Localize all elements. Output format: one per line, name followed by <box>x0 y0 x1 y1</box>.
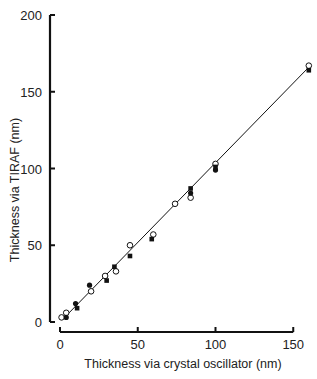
y-tick-label: 50 <box>28 238 42 253</box>
filled-square-point <box>149 237 154 242</box>
filled-circle-point <box>87 283 92 288</box>
fit-line <box>63 67 309 319</box>
x-tick-label: 150 <box>282 337 304 352</box>
filled-square-point <box>75 306 80 311</box>
open-circle-point <box>59 315 65 321</box>
filled-square-point <box>307 68 312 73</box>
y-tick-label: 150 <box>20 85 42 100</box>
filled-square-point <box>188 186 193 191</box>
open-circle-point <box>306 63 312 69</box>
filled-circle-point <box>64 315 69 320</box>
open-circle-point <box>113 269 119 275</box>
filled-square-point <box>112 264 117 269</box>
x-tick-label: 100 <box>205 337 227 352</box>
filled-circle-point <box>188 190 193 195</box>
data-points <box>59 63 312 320</box>
open-circle-point <box>151 232 157 238</box>
x-tick-label: 0 <box>56 337 63 352</box>
y-tick-label: 0 <box>35 315 42 330</box>
filled-square-point <box>128 254 133 259</box>
scatter-chart: 050100150200 050100150 Thickness via cry… <box>0 0 317 379</box>
x-tick-label: 50 <box>131 337 145 352</box>
y-tick-label: 100 <box>20 162 42 177</box>
open-circle-point <box>63 310 69 316</box>
open-circle-point <box>127 242 133 248</box>
x-axis-title: Thickness via crystal oscillator (nm) <box>84 357 281 371</box>
x-axis: 050100150 <box>56 327 304 352</box>
open-circle-point <box>102 273 108 279</box>
open-circle-point <box>188 195 194 201</box>
open-circle-point <box>172 201 178 207</box>
y-axis-title: Thickness via TIRAF (nm) <box>8 118 22 262</box>
y-axis: 050100150200 <box>20 8 55 330</box>
open-circle-point <box>88 289 94 295</box>
filled-square-point <box>213 165 218 170</box>
filled-circle-point <box>73 301 78 306</box>
filled-square-point <box>104 278 109 283</box>
y-tick-label: 200 <box>20 8 42 23</box>
